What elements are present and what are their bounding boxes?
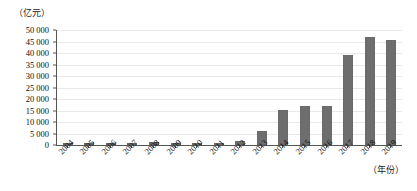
x-axis-tick-label-group: 2004200520062007200820092010201120122013…: [56, 148, 401, 182]
y-axis-tick-label: 0: [45, 141, 49, 150]
y-axis-tick-label: 45 000: [26, 37, 49, 46]
y-axis-tick-label: 20 000: [26, 95, 49, 104]
y-axis-tick-label: 5 000: [30, 129, 49, 138]
plot-area: [56, 30, 402, 146]
bar: [343, 55, 353, 145]
y-axis-tick-label: 10 000: [26, 118, 49, 127]
bars-layer: [57, 30, 402, 145]
x-axis-title: （年份）: [368, 163, 404, 176]
y-axis-unit-label: （亿元）: [14, 6, 50, 19]
y-axis-tick-label: 30 000: [26, 72, 49, 81]
y-axis-tick-label: 15 000: [26, 106, 49, 115]
y-axis-tick-label: 25 000: [26, 83, 49, 92]
y-axis-tick-label: 40 000: [26, 49, 49, 58]
y-axis-tick-label: 35 000: [26, 60, 49, 69]
bar: [386, 40, 396, 145]
bar-chart-figure: （亿元） 05 00010 00015 00020 00025 00030 00…: [0, 0, 417, 191]
y-axis-tick-label: 50 000: [26, 26, 49, 35]
bar: [365, 37, 375, 145]
y-axis-tick-label-group: 05 00010 00015 00020 00025 00030 00035 0…: [0, 30, 56, 145]
